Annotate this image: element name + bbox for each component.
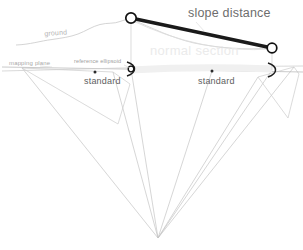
- standard-left-dot: [94, 71, 97, 74]
- diagram-canvas: normal section slope distance ground map…: [0, 0, 303, 250]
- ellipsoid-highlight-band: [130, 68, 272, 70]
- ground-profile-curve: [16, 18, 131, 45]
- ground-station-left-marker: [126, 13, 136, 23]
- fan-ray: [158, 71, 212, 238]
- standard-right-dot: [211, 70, 214, 73]
- ellipsoid-point-left-marker: [128, 66, 134, 72]
- fan-ray: [158, 70, 272, 238]
- mapping-plane-leader: [40, 66, 52, 67]
- fan-ray: [158, 67, 294, 238]
- fan-ray: [22, 68, 158, 238]
- slope-distance-line: [131, 18, 272, 48]
- fan-rays-group: [22, 67, 294, 238]
- fan-ray: [158, 77, 258, 238]
- wedge-right: [258, 67, 299, 118]
- geodetic-diagram-svg: [0, 0, 303, 250]
- ground-station-right-marker: [267, 43, 277, 53]
- wedge-left: [22, 68, 130, 124]
- normal-section-curve: [131, 20, 271, 50]
